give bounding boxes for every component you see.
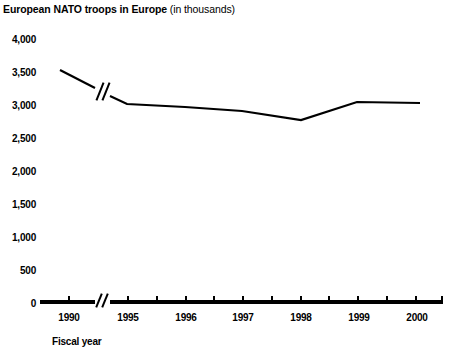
x-axis-title: Fiscal year — [52, 336, 102, 347]
x-axis-tick — [242, 296, 244, 300]
line-segment-1995-2000 — [110, 96, 420, 120]
x-tick-label-1997: 1997 — [232, 312, 253, 323]
x-axis-tick — [271, 296, 273, 300]
x-axis-tick — [68, 296, 70, 300]
x-tick-label-1990: 1990 — [58, 312, 79, 323]
x-axis-tick — [328, 296, 330, 300]
x-tick-label-1999: 1999 — [348, 312, 369, 323]
x-tick-label-1998: 1998 — [290, 312, 311, 323]
x-axis-tick — [156, 296, 158, 300]
line-segment-1990 — [60, 70, 95, 88]
x-axis-line-left — [40, 300, 95, 304]
x-axis-tick — [386, 296, 388, 300]
x-axis-tick — [441, 296, 443, 300]
x-axis-line-main — [110, 300, 443, 304]
x-axis-tick — [127, 296, 129, 300]
x-axis-tick — [357, 296, 359, 300]
chart-container: European NATO troops in Europe (in thous… — [0, 0, 449, 356]
x-axis-tick — [300, 296, 302, 300]
x-axis-tick — [415, 296, 417, 300]
x-axis-tick — [213, 296, 215, 300]
x-tick-label-2000: 2000 — [406, 312, 427, 323]
x-tick-label-1996: 1996 — [175, 312, 196, 323]
x-tick-label-1995: 1995 — [117, 312, 138, 323]
x-axis-tick — [185, 296, 187, 300]
